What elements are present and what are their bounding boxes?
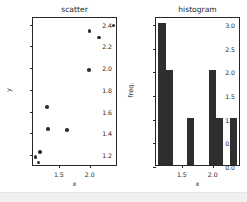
x-tick-mark	[213, 165, 214, 168]
histogram-bar	[230, 118, 237, 165]
y-tick-mark	[153, 143, 156, 144]
y-tick-label: 2.5	[225, 45, 235, 52]
y-tick-mark	[153, 25, 156, 26]
scatter-point	[88, 29, 92, 33]
scatter-point	[37, 161, 41, 165]
scatter-point	[38, 150, 42, 154]
y-tick-mark	[30, 155, 33, 156]
histogram-xlabel: x	[155, 180, 240, 188]
y-tick-label: 3.0	[225, 22, 235, 29]
matplotlib-figure: scatter 1.21.41.61.82.02.22.4 1.52.0 x y…	[0, 0, 247, 202]
histogram-bar	[209, 70, 216, 165]
scatter-point	[45, 105, 49, 109]
scatter-point	[112, 24, 116, 28]
scatter-point	[46, 127, 50, 131]
y-tick-mark	[30, 46, 33, 47]
scatter-axes: scatter 1.21.41.61.82.02.22.4 1.52.0	[32, 17, 117, 166]
x-tick-label: 1.5	[54, 171, 64, 178]
y-tick-label: 1.2	[102, 152, 112, 159]
x-tick-mark	[90, 165, 91, 168]
histogram-bar	[216, 118, 223, 165]
histogram-bar	[166, 70, 173, 165]
histogram-bar	[187, 118, 194, 165]
x-tick-label: 1.5	[177, 171, 187, 178]
scatter-point	[97, 36, 101, 40]
histogram-bar	[158, 23, 165, 165]
x-tick-mark	[59, 165, 60, 168]
y-tick-mark	[30, 112, 33, 113]
y-tick-label: 1.5	[225, 93, 235, 100]
y-tick-mark	[153, 96, 156, 97]
scatter-ylabel: y	[5, 78, 13, 102]
y-tick-mark	[30, 68, 33, 69]
histogram-title: histogram	[156, 5, 239, 15]
y-tick-label: 2.4	[102, 21, 112, 28]
histogram-ylabel: freq.	[127, 78, 135, 102]
x-tick-label: 2.0	[85, 171, 95, 178]
x-tick-mark	[182, 165, 183, 168]
scatter-xlabel: x	[32, 180, 117, 188]
y-tick-mark	[30, 90, 33, 91]
y-tick-mark	[153, 167, 156, 168]
y-tick-mark	[30, 133, 33, 134]
y-tick-label: 1.8	[102, 86, 112, 93]
y-tick-label: 2.0	[102, 65, 112, 72]
y-tick-label: 1.4	[102, 130, 112, 137]
scatter-title: scatter	[33, 5, 116, 15]
histogram-axes: histogram 0.00.51.01.52.02.53.0 1.52.0	[155, 17, 240, 166]
y-tick-mark	[153, 72, 156, 73]
x-tick-label: 2.0	[208, 171, 218, 178]
y-tick-label: 2.0	[225, 69, 235, 76]
page-edge-band	[0, 192, 247, 202]
y-tick-mark	[153, 49, 156, 50]
scatter-point	[34, 155, 38, 159]
y-tick-mark	[153, 120, 156, 121]
y-tick-mark	[30, 25, 33, 26]
scatter-point	[87, 68, 91, 72]
y-tick-label: 1.6	[102, 108, 112, 115]
scatter-point	[65, 128, 69, 132]
y-tick-label: 2.2	[102, 43, 112, 50]
